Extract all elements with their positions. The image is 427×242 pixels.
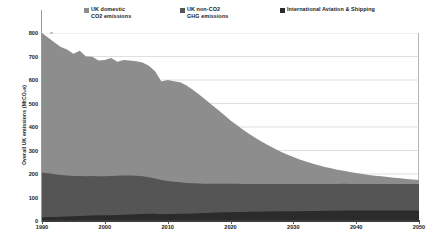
legend-item-uk-domestic-co2[interactable]: UK domestic CO2 emissions [84,6,131,19]
x-tick-label: 2030 [276,224,310,230]
stacked-area-svg [42,33,419,221]
y-tick-label: 700 [16,54,38,60]
y-tick-label: 600 [16,77,38,83]
x-tick-label: 2040 [339,224,373,230]
x-tick-mark [293,221,294,224]
legend-swatch-icon [180,8,185,13]
x-tick-label: 2010 [151,224,185,230]
x-tick-mark [231,221,232,224]
x-tick-label: 2020 [214,224,248,230]
legend-label: International Aviation & Shipping [287,6,375,13]
y-axis-ticks: 0100200300400500600700800 [12,0,38,242]
legend-item-international-aviation-shipping[interactable]: International Aviation & Shipping [280,6,375,13]
legend-label: UK domestic CO2 emissions [91,6,131,19]
y-tick-label: 400 [16,124,38,130]
legend-item-uk-non-co2-ghg[interactable]: UK non-CO2 GHG emissions [180,6,228,19]
x-tick-mark [356,221,357,224]
chart-legend: UK domestic CO2 emissions UK non-CO2 GHG… [84,6,424,30]
legend-swatch-icon [280,8,285,13]
x-tick-mark [42,221,43,224]
x-tick-label: 2050 [402,224,427,230]
y-tick-label: 100 [16,195,38,201]
plot-area [42,33,419,221]
x-tick-label: 2000 [88,224,122,230]
x-tick-label: 1990 [25,224,59,230]
x-tick-mark [105,221,106,224]
y-tick-label: 200 [16,171,38,177]
y-tick-label: 500 [16,101,38,107]
x-tick-mark [168,221,169,224]
x-tick-mark [419,221,420,224]
legend-label: UK non-CO2 GHG emissions [187,6,228,19]
emissions-area-chart: UK domestic CO2 emissions UK non-CO2 GHG… [0,0,427,242]
y-tick-label: 300 [16,148,38,154]
x-axis-ticks: 1990200020102020203020402050 [0,224,427,240]
y-tick-label: 800 [16,30,38,36]
legend-swatch-icon [84,8,89,13]
